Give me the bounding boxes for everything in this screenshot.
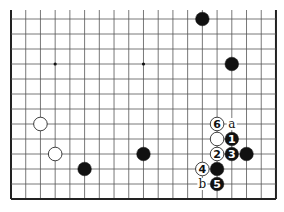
black-stone [137,147,151,161]
black-stone [196,12,210,26]
black-stone-3: 3 [225,147,239,161]
black-stone [225,57,239,71]
black-stone [78,162,92,176]
marker-label-b: b [199,177,207,191]
white-stone [34,117,48,131]
black-stone [210,162,224,176]
move-number: 6 [213,118,221,131]
move-number: 3 [228,148,236,161]
move-number: 1 [228,133,236,146]
move-number: 2 [213,148,221,161]
white-stone-4: 4 [196,162,210,176]
go-board-diagram: ab 612345 [0,0,284,212]
black-stone [240,147,254,161]
star-point [54,62,57,65]
white-stone-6: 6 [210,117,224,131]
move-number: 4 [199,163,207,176]
black-stone-5: 5 [210,177,224,191]
white-stone [210,132,224,146]
white-stone-2: 2 [210,147,224,161]
board-grid [11,10,276,199]
marker-label-a: a [228,117,235,131]
black-stone-1: 1 [225,132,239,146]
star-point [142,62,145,65]
move-number: 5 [213,178,221,191]
white-stone [48,147,62,161]
